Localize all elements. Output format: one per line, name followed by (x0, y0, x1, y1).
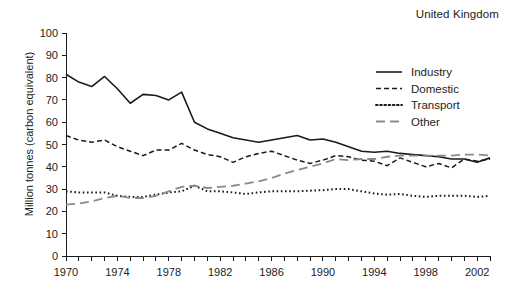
chart-title: United Kingdom (416, 8, 499, 20)
x-tick-label: 2002 (465, 266, 489, 278)
y-tick-label: 60 (46, 116, 58, 128)
x-axis-ticks: 197019741978198219861990199419982002 (54, 256, 490, 278)
y-tick-label: 80 (46, 72, 58, 84)
y-tick-label: 50 (46, 139, 58, 151)
x-tick-label: 1982 (208, 266, 232, 278)
y-tick-label: 90 (46, 49, 58, 61)
x-tick-label: 1990 (311, 266, 335, 278)
y-tick-label: 70 (46, 94, 58, 106)
x-tick-label: 1986 (259, 266, 283, 278)
legend-label-other: Other (411, 116, 440, 128)
chart-plot-area: 0102030405060708090100 19701974197819821… (0, 0, 513, 295)
y-tick-label: 0 (52, 250, 58, 262)
y-tick-label: 100 (40, 27, 58, 39)
y-tick-label: 40 (46, 161, 58, 173)
legend-label-transport: Transport (411, 99, 461, 111)
legend-label-industry: Industry (411, 66, 452, 78)
y-tick-label: 20 (46, 205, 58, 217)
series-line-transport (66, 186, 490, 197)
y-axis-ticks: 0102030405060708090100 (40, 27, 66, 262)
series-line-domestic (66, 136, 490, 168)
x-tick-label: 1998 (414, 266, 438, 278)
legend-label-domestic: Domestic (411, 83, 459, 95)
y-tick-label: 30 (46, 183, 58, 195)
x-tick-label: 1974 (105, 266, 129, 278)
y-axis-title: Million tonnes (carbon equivalent) (23, 9, 35, 259)
y-tick-label: 10 (46, 228, 58, 240)
chart-container: United Kingdom Million tonnes (carbon eq… (0, 0, 513, 295)
series-line-other (66, 155, 490, 205)
x-tick-label: 1978 (157, 266, 181, 278)
x-tick-label: 1994 (362, 266, 386, 278)
x-tick-label: 1970 (54, 266, 78, 278)
chart-legend: IndustryDomesticTransportOther (376, 66, 461, 128)
